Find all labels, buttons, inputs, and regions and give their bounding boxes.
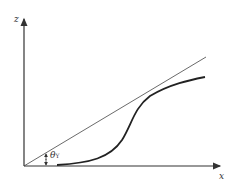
diagram-svg [0, 0, 234, 185]
z-axis-label: z [14, 15, 19, 24]
angle-subscript: Y [55, 152, 59, 159]
angle-label: θY [50, 151, 59, 160]
x-axis-label: x [219, 172, 224, 181]
curve [57, 77, 205, 165]
diagram-canvas: z x θY [0, 0, 234, 185]
